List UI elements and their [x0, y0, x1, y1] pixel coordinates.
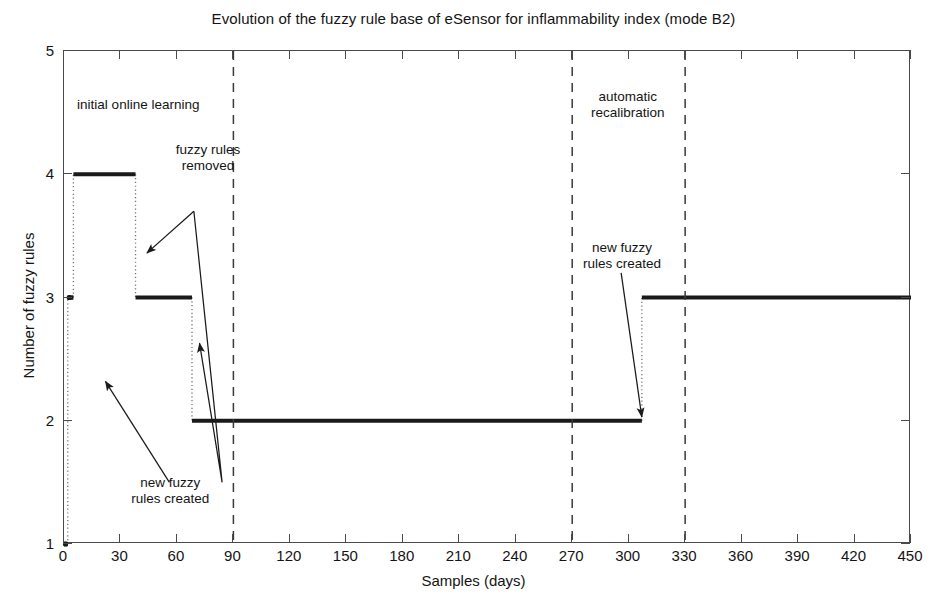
x-tick-label: 240	[502, 547, 527, 564]
x-tick-mark	[176, 534, 177, 543]
x-tick-mark	[910, 534, 911, 543]
x-tick-label: 390	[785, 547, 810, 564]
x-tick-label: 270	[559, 547, 584, 564]
x-tick-mark	[232, 534, 233, 543]
x-tick-mark	[63, 50, 64, 59]
x-tick-mark	[119, 50, 120, 59]
y-tick-mark	[63, 297, 72, 298]
chart-title: Evolution of the fuzzy rule base of eSen…	[0, 10, 947, 27]
x-tick-label: 150	[333, 547, 358, 564]
x-tick-mark	[515, 50, 516, 59]
x-tick-mark	[571, 50, 572, 59]
x-tick-mark	[684, 534, 685, 543]
x-tick-label: 210	[446, 547, 471, 564]
annotation-automatic-recalibration: automatic recalibration	[591, 90, 665, 122]
x-tick-mark	[345, 534, 346, 543]
x-tick-label: 90	[224, 547, 241, 564]
y-tick-mark	[901, 543, 910, 544]
x-tick-mark	[910, 50, 911, 59]
y-tick-label: 5	[28, 42, 54, 59]
x-tick-mark	[571, 534, 572, 543]
x-tick-label: 120	[276, 547, 301, 564]
y-tick-mark	[63, 543, 72, 544]
annotation-arrow	[147, 211, 194, 253]
x-tick-mark	[854, 534, 855, 543]
x-tick-label: 60	[168, 547, 185, 564]
x-tick-label: 180	[389, 547, 414, 564]
x-tick-mark	[797, 534, 798, 543]
annotation-fuzzy-rules-removed: fuzzy rules removed	[176, 143, 241, 175]
y-tick-mark	[901, 173, 910, 174]
x-tick-label: 0	[59, 547, 67, 564]
annotation-arrow	[621, 273, 642, 417]
x-tick-mark	[628, 50, 629, 59]
y-tick-mark	[901, 50, 910, 51]
x-tick-mark	[741, 50, 742, 59]
x-tick-mark	[289, 534, 290, 543]
x-tick-mark	[345, 50, 346, 59]
x-tick-label: 330	[672, 547, 697, 564]
y-tick-mark	[901, 420, 910, 421]
y-axis-title: Number of fuzzy rules	[20, 146, 37, 466]
x-tick-mark	[232, 50, 233, 59]
y-tick-mark	[63, 173, 72, 174]
x-tick-mark	[289, 50, 290, 59]
x-tick-mark	[854, 50, 855, 59]
x-axis-title: Samples (days)	[0, 572, 947, 589]
x-tick-label: 30	[111, 547, 128, 564]
x-tick-mark	[63, 534, 64, 543]
x-tick-mark	[458, 50, 459, 59]
annotation-arrow	[105, 381, 169, 482]
annotation-new-fuzzy-rules-created-left: new fuzzy rules created	[131, 475, 209, 507]
y-tick-mark	[63, 50, 72, 51]
x-tick-label: 450	[897, 547, 922, 564]
x-tick-mark	[176, 50, 177, 59]
x-tick-mark	[402, 534, 403, 543]
plot-svg	[64, 51, 911, 544]
x-tick-mark	[458, 534, 459, 543]
x-tick-label: 300	[615, 547, 640, 564]
annotation-arrow	[194, 211, 222, 482]
annotation-new-fuzzy-rules-created-right: new fuzzy rules created	[583, 240, 661, 272]
x-tick-mark	[797, 50, 798, 59]
annotation-initial-online-learning: initial online learning	[77, 97, 199, 113]
x-tick-mark	[684, 50, 685, 59]
x-tick-mark	[628, 534, 629, 543]
y-tick-mark	[63, 420, 72, 421]
figure: Evolution of the fuzzy rule base of eSen…	[0, 0, 947, 605]
x-tick-mark	[515, 534, 516, 543]
y-tick-mark	[901, 297, 910, 298]
x-tick-mark	[402, 50, 403, 59]
x-tick-label: 420	[841, 547, 866, 564]
y-tick-label: 1	[28, 535, 54, 552]
annotation-arrows	[105, 211, 641, 482]
x-tick-label: 360	[728, 547, 753, 564]
x-tick-mark	[119, 534, 120, 543]
vertical-marker-lines	[233, 51, 685, 544]
x-tick-mark	[741, 534, 742, 543]
plot-area	[63, 50, 910, 543]
